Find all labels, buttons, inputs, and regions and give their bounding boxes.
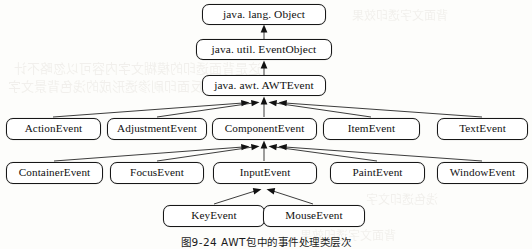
edge-awtevent-textevent (279, 100, 483, 117)
edge-inputevent-mouseevent (267, 188, 314, 204)
edge-componentevent-containerevent (54, 144, 250, 161)
edge-awtevent-actionevent (53, 100, 250, 117)
edge-eventobject-awtevent (261, 61, 268, 77)
edge-componentevent-windowevent (279, 144, 483, 161)
edge-componentevent-inputevent (261, 141, 268, 162)
edge-object-eventobject (261, 25, 268, 41)
edge-awtevent-componentevent (261, 97, 268, 118)
edge-inputevent-keyevent (214, 188, 262, 204)
figure-caption: 图9-24 AWT包中的事件处理类层次 (0, 234, 532, 249)
